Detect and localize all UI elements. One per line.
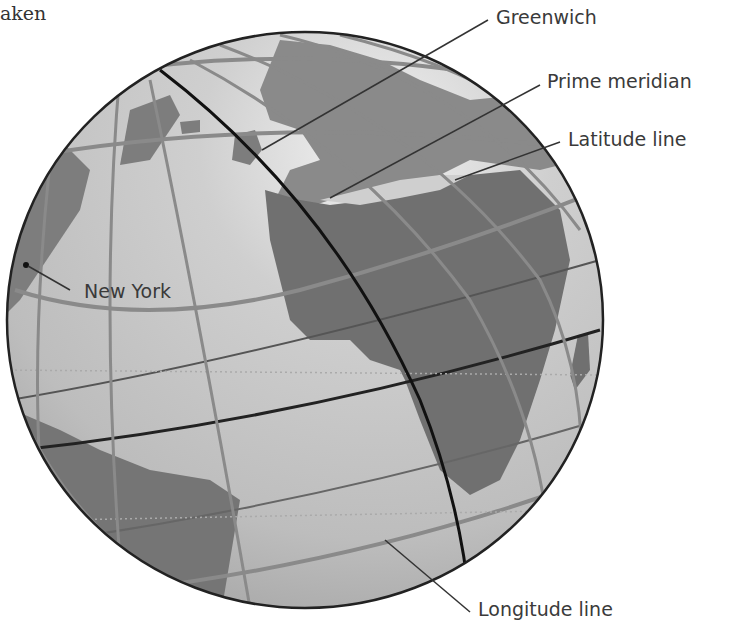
iceland-landmass	[180, 120, 200, 134]
label-prime-meridian: Prime meridian	[547, 70, 692, 92]
label-greenwich: Greenwich	[496, 6, 597, 28]
label-latitude-line: Latitude line	[568, 128, 687, 150]
label-longitude-line: Longitude line	[478, 598, 613, 620]
label-new-york: New York	[84, 280, 171, 302]
globe-diagram: aken	[0, 0, 730, 622]
new-york-marker	[23, 262, 29, 268]
globe-illustration	[0, 0, 730, 622]
